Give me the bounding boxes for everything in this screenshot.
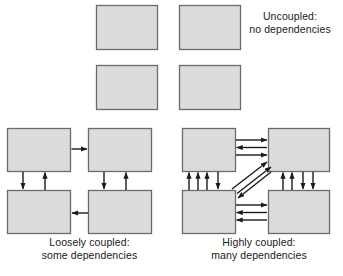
uncoupled-caption: Uncoupled: no dependencies [238,10,342,36]
loose-box-bottom-right [89,191,152,234]
loose-box-bottom-left [8,191,71,234]
loosely-coupled-group [8,129,152,234]
high-box-top-left [183,129,236,172]
uncoupled-caption-line-2: no dependencies [238,23,342,36]
highly-coupled-group [183,129,330,234]
high-arrow-diagonal-up-right-2 [237,167,271,194]
uncoupled-box-top-right [180,6,241,50]
uncoupled-box-bottom-left [97,66,158,110]
loose-box-top-right [89,129,152,172]
highly-coupled-caption-line-2: many dependencies [176,249,342,262]
highly-coupled-caption-line-1: Highly coupled: [176,236,342,249]
high-box-top-right [269,129,330,172]
loosely-coupled-caption-line-2: some dependencies [2,249,177,262]
loosely-coupled-caption: Loosely coupled: some dependencies [2,236,177,262]
uncoupled-box-top-left [97,6,158,50]
highly-coupled-caption: Highly coupled: many dependencies [176,236,342,262]
uncoupled-caption-line-1: Uncoupled: [238,10,342,23]
uncoupled-group [97,6,241,110]
high-arrow-diagonal-up-right-1 [232,162,267,189]
high-box-bottom-left [183,191,236,234]
high-arrow-diagonal-down-left-1 [238,172,271,198]
loosely-coupled-caption-line-1: Loosely coupled: [2,236,177,249]
loose-box-top-left [8,129,71,172]
coupling-diagram: Uncoupled: no dependencies Loosely coupl… [0,0,343,276]
high-box-bottom-right [269,191,330,234]
uncoupled-box-bottom-right [180,66,241,110]
diagram-canvas [0,0,343,276]
